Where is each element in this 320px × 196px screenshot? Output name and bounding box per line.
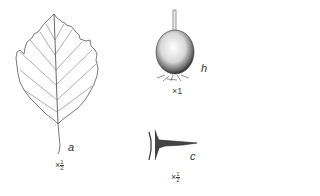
figure-label-c: c xyxy=(190,150,196,162)
figure-label-h: h xyxy=(201,62,207,74)
scale-label-c: ×12 xyxy=(171,172,180,183)
thorn-illustration xyxy=(125,110,249,196)
figure-label-a: a xyxy=(68,141,74,153)
scale-label-a: ×12 xyxy=(55,160,64,171)
fruit-illustration xyxy=(125,0,249,110)
scale-label-h: ×1 xyxy=(172,86,182,96)
